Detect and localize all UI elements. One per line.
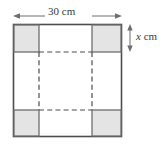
corner-square-top-left (14, 25, 39, 52)
width-arrow-right-icon (115, 13, 122, 19)
height-dimension-group (127, 24, 132, 52)
height-arrow-up-icon (127, 24, 132, 31)
width-label: 30 cm (48, 6, 75, 17)
geometry-figure: 30 cm x cm (0, 0, 166, 149)
height-arrow-down-icon (127, 46, 132, 53)
height-label-unit: cm (144, 30, 157, 42)
corner-square-bottom-left (14, 110, 39, 136)
width-arrow-left-icon (13, 13, 20, 19)
corner-square-bottom-right (92, 110, 121, 136)
corner-square-top-right (92, 25, 121, 52)
figure-canvas (0, 0, 166, 149)
height-label: x cm (136, 31, 157, 42)
height-label-variable: x (136, 30, 141, 42)
